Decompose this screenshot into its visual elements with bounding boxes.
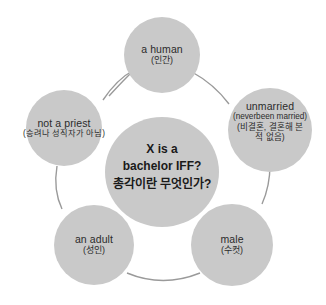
arc-left-to-top [109, 73, 132, 96]
center-ellipse [105, 117, 219, 227]
node-circle-not-a-priest[interactable] [26, 90, 102, 166]
arc-left-to-bottom-left [56, 166, 62, 209]
node-circle-an-adult[interactable] [54, 205, 134, 285]
arc-bottom-left-to-bottom-right [127, 273, 200, 281]
arc-top-to-right [192, 72, 229, 104]
node-circle-unmarried[interactable] [228, 88, 312, 172]
node-circle-a-human[interactable] [124, 17, 200, 93]
node-circle-male[interactable] [191, 204, 273, 286]
bachelor-concept-diagram [0, 0, 326, 305]
